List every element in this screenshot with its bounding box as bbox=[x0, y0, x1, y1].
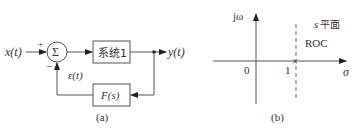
system1-label: 系统1 bbox=[98, 47, 127, 60]
minus-sign: − bbox=[46, 60, 52, 72]
s-plane-diagram-b: × jω s 平面 ROC 0 1 σ (b) bbox=[213, 10, 350, 124]
roc-label: ROC bbox=[305, 37, 328, 49]
plane-label: 平面 bbox=[320, 19, 340, 30]
feedback-path-right bbox=[131, 52, 154, 95]
caption-b: (b) bbox=[271, 111, 284, 124]
s-variable-label: s bbox=[314, 18, 318, 30]
sigma-label: σ bbox=[343, 65, 350, 79]
block-diagram-a: x(t) + − Σ ε(t) 系统1 F(s) y(t) (a) bbox=[4, 39, 185, 124]
input-label: x(t) bbox=[4, 45, 22, 59]
jomega-label: jω bbox=[232, 10, 243, 22]
output-label: y(t) bbox=[167, 45, 185, 59]
diagram-canvas: x(t) + − Σ ε(t) 系统1 F(s) y(t) (a) × jω s… bbox=[0, 0, 364, 132]
feedback-block-label: F(s) bbox=[100, 89, 120, 102]
caption-a: (a) bbox=[96, 111, 109, 124]
pole-marker: × bbox=[292, 56, 298, 67]
boundary-tick-label: 1 bbox=[285, 64, 291, 76]
origin-tick-label: 0 bbox=[244, 64, 250, 76]
plus-sign: + bbox=[38, 39, 43, 49]
sum-symbol: Σ bbox=[52, 45, 59, 59]
error-label: ε(t) bbox=[68, 69, 83, 82]
